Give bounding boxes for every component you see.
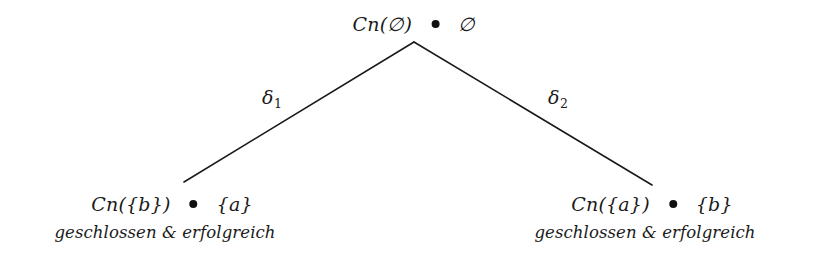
edge-label-delta2-base: δ [548, 86, 559, 108]
node-root-bullet-icon [431, 20, 439, 28]
diagram-canvas: Cn(∅) ∅ δ1 δ2 Cn({b}) {a} geschlossen & … [0, 0, 831, 278]
edge-label-delta2-subscript: 2 [560, 95, 568, 110]
edge-line-delta2 [414, 42, 652, 185]
edge-label-delta1-subscript: 1 [274, 95, 282, 110]
edge-label-delta1-base: δ [262, 86, 273, 108]
node-leaf-left-bullet-icon [190, 200, 198, 208]
node-leaf-right-left-expr: Cn({a}) [571, 193, 650, 215]
node-root-left-expr: Cn(∅) [353, 13, 413, 35]
node-leaf-left-left-expr: Cn({b}) [91, 193, 170, 215]
node-root-right-expr: ∅ [458, 13, 475, 35]
node-leaf-right-right-expr: {b} [696, 193, 733, 215]
edge-label-delta2: δ2 [548, 86, 568, 111]
node-leaf-right: Cn({a}) {b} [571, 193, 732, 215]
node-leaf-left-right-expr: {a} [217, 193, 253, 215]
node-leaf-right-bullet-icon [669, 200, 677, 208]
node-root: Cn(∅) ∅ [353, 13, 476, 35]
edge-label-delta1: δ1 [262, 86, 282, 111]
node-leaf-left: Cn({b}) {a} [91, 193, 252, 215]
node-leaf-right-caption: geschlossen & erfolgreich [534, 223, 755, 242]
node-leaf-left-caption: geschlossen & erfolgreich [54, 223, 275, 242]
edge-line-delta1 [184, 42, 414, 182]
